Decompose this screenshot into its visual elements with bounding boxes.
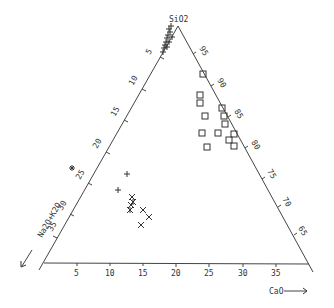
- bottom-axis: [44, 263, 309, 264]
- right-axis-ticks: 95 90 85 80 75 70 65: [193, 45, 309, 238]
- svg-text:30: 30: [238, 269, 248, 278]
- alkali-label: Na2O+K2O: [36, 201, 63, 239]
- cao-label: CaO: [269, 287, 284, 296]
- svg-text:75: 75: [265, 168, 278, 181]
- left-axis: [39, 26, 178, 270]
- cross-markers: [160, 23, 175, 55]
- svg-text:20: 20: [171, 269, 181, 278]
- svg-text:35: 35: [271, 269, 281, 278]
- ternary-diagram: SiO2 5 10 15 20 25 30 35 95 90 85 80 75 …: [0, 0, 334, 308]
- bottom-axis-ticks: 5 10 15 20 25 30 35: [74, 263, 281, 278]
- right-arrow-icon: [284, 288, 307, 294]
- right-axis: [178, 26, 313, 272]
- svg-text:20: 20: [91, 137, 104, 150]
- svg-text:10: 10: [105, 269, 115, 278]
- svg-text:5: 5: [144, 47, 154, 56]
- svg-text:10: 10: [127, 74, 140, 87]
- svg-text:85: 85: [232, 108, 245, 121]
- svg-text:25: 25: [74, 168, 87, 181]
- down-left-arrow-icon: [21, 250, 32, 267]
- svg-text:70: 70: [280, 196, 293, 209]
- left-axis-ticks: 5 10 15 20 25 30 35: [46, 47, 164, 238]
- svg-text:90: 90: [215, 77, 228, 90]
- svg-text:80: 80: [249, 139, 262, 152]
- svg-text:95: 95: [197, 45, 210, 58]
- svg-text:25: 25: [204, 269, 214, 278]
- svg-text:15: 15: [109, 105, 122, 118]
- svg-text:65: 65: [296, 225, 309, 238]
- svg-text:5: 5: [74, 269, 79, 278]
- apex-label: SiO2: [169, 15, 188, 24]
- svg-text:15: 15: [138, 269, 148, 278]
